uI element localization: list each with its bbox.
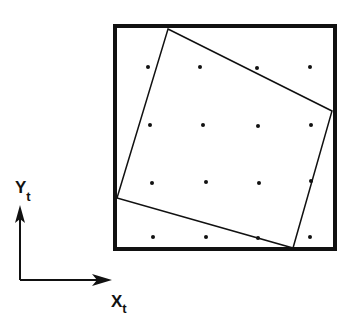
grid-point: [256, 236, 260, 240]
grid-point: [308, 65, 312, 69]
y-axis-label: Yt: [15, 178, 31, 204]
grid-point: [201, 123, 205, 127]
grid-point: [150, 181, 154, 185]
grid-point: [309, 123, 313, 127]
grid-point: [146, 65, 150, 69]
coordinate-axes: Yt Xt: [15, 178, 127, 316]
grid-point: [257, 181, 261, 185]
grid-point: [148, 123, 152, 127]
grid-point: [204, 180, 208, 184]
grid-point: [309, 179, 313, 183]
grid-point: [151, 235, 155, 239]
grid-point: [308, 235, 312, 239]
grid-point: [256, 124, 260, 128]
diagram-canvas: Yt Xt: [0, 0, 347, 323]
grid-point: [255, 66, 259, 70]
grid-point: [198, 65, 202, 69]
x-axis-label: Xt: [111, 292, 127, 316]
grid-point: [204, 235, 208, 239]
rotated-square: [117, 29, 332, 248]
